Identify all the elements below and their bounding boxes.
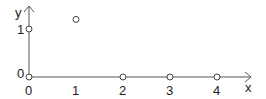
y-tick-0: 0 <box>17 66 24 81</box>
data-point-circle-icon <box>73 16 79 22</box>
x-tick-4: 4 <box>213 83 220 98</box>
tick-labels: 0 1 2 3 4 0 1 x y <box>15 5 252 98</box>
y-axis-label: y <box>15 5 22 20</box>
x-tick-3: 3 <box>166 83 173 98</box>
y-tick-1: 1 <box>17 22 24 37</box>
x-tick-1: 1 <box>72 83 79 98</box>
data-point-circle-icon <box>26 26 32 32</box>
data-point-circle-icon <box>167 74 173 80</box>
data-point-circle-icon <box>120 74 126 80</box>
data-points <box>26 16 220 80</box>
plot-area: 0 1 2 3 4 0 1 x y <box>0 0 266 99</box>
x-tick-2: 2 <box>119 83 126 98</box>
data-point-circle-icon <box>214 74 220 80</box>
x-tick-0: 0 <box>25 83 32 98</box>
axes <box>24 6 251 82</box>
x-axis-label: x <box>245 80 252 95</box>
data-point-circle-icon <box>26 74 32 80</box>
